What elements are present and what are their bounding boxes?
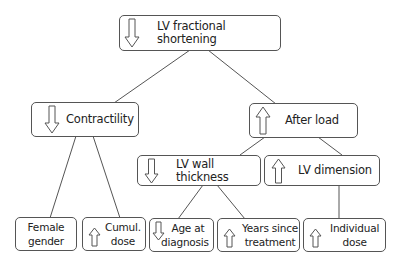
- node-years-since-treatment: Years since treatment: [217, 218, 300, 252]
- arrow-up-icon: [255, 106, 271, 135]
- arrow-down-icon: [144, 158, 159, 184]
- node-female-gender: Female gender: [15, 217, 77, 251]
- arrow-up-icon: [223, 228, 236, 248]
- edge-root-contractility: [114, 50, 190, 103]
- node-after-load: After load: [249, 103, 358, 138]
- node-label: LV fractional shortening: [157, 20, 280, 46]
- arrow-up-icon: [309, 228, 322, 248]
- arrow-down-icon: [44, 105, 60, 134]
- node-label: LV dimension: [298, 164, 372, 177]
- node-age-at-diagnosis: Age at diagnosis: [149, 218, 214, 252]
- node-contractility: Contractility: [31, 102, 139, 137]
- node-label: LV wall thickness: [176, 158, 260, 184]
- node-label: Years since treatment: [242, 221, 298, 249]
- edge-wall-age: [178, 185, 203, 219]
- node-label: Individual dose: [330, 221, 379, 249]
- node-label: After load: [285, 114, 339, 127]
- node-label: Contractility: [66, 113, 134, 126]
- edge-contractility-cumul: [93, 136, 120, 218]
- edge-contractility-female: [50, 136, 76, 218]
- arrow-up-icon: [271, 158, 286, 184]
- node-cumul-dose: Cumul. dose: [82, 217, 146, 251]
- arrow-up-icon: [88, 227, 101, 247]
- arrow-down-icon: [124, 18, 140, 48]
- edge-afterload-wall: [240, 137, 265, 155]
- edge-root-afterload: [208, 50, 276, 104]
- node-label: Female gender: [28, 220, 65, 248]
- edge-afterload-dimension: [318, 137, 342, 155]
- node-individual-dose: Individual dose: [303, 218, 386, 252]
- node-label: Age at diagnosis: [161, 221, 209, 249]
- node-lv-fractional-shortening: LV fractional shortening: [119, 15, 281, 51]
- node-label: Cumul. dose: [105, 220, 141, 248]
- node-lv-dimension: LV dimension: [264, 155, 380, 186]
- node-lv-wall-thickness: LV wall thickness: [137, 155, 261, 186]
- edge-wall-years: [217, 185, 245, 219]
